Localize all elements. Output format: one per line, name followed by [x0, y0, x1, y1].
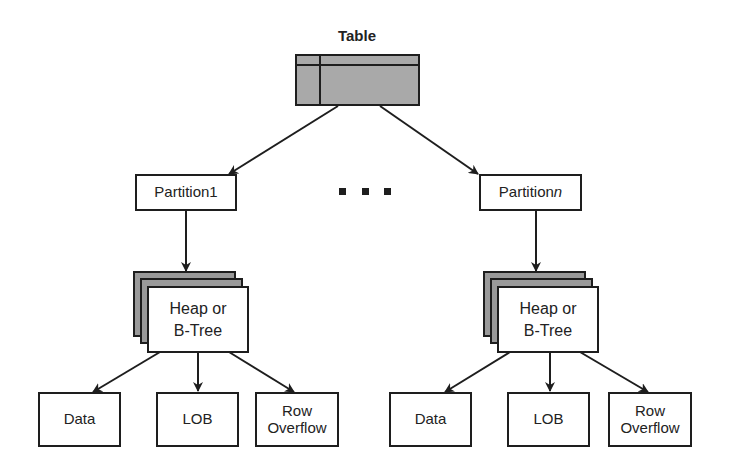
partitionn-label: Partitionn	[480, 175, 581, 210]
arrow-table-to-partitionn	[380, 106, 478, 174]
rowoverflow-1-line2: Overflow	[267, 420, 326, 437]
lob-label-n: LOB	[508, 393, 589, 446]
arrow-storagen-to-rowoverflow	[580, 352, 648, 392]
arrow-table-to-partition1	[229, 106, 338, 174]
arrow-storage1-to-rowoverflow	[229, 352, 294, 392]
table-icon	[296, 55, 419, 105]
diagram-canvas: Table Partition1 Partitionn Heap or B-Tr…	[0, 0, 746, 470]
rowoverflow-n-line1: Row	[635, 403, 665, 420]
storage1-label: Heap or B-Tree	[148, 287, 248, 352]
storagen-line1: Heap or	[520, 300, 577, 318]
arrow-storage1-to-data	[93, 352, 160, 392]
arrow-storagen-to-data	[445, 352, 510, 392]
storage1-line1: Heap or	[170, 300, 227, 318]
table-title: Table	[307, 24, 407, 48]
storage1-line2: B-Tree	[174, 322, 222, 340]
storagen-label: Heap or B-Tree	[498, 287, 598, 352]
rowoverflow-label-1: Row Overflow	[256, 393, 338, 446]
partitionn-label-main: Partition	[499, 184, 554, 201]
lob-label-1: LOB	[157, 393, 238, 446]
rowoverflow-n-line2: Overflow	[620, 420, 679, 437]
rowoverflow-1-line1: Row	[282, 403, 312, 420]
data-label-1: Data	[39, 393, 120, 446]
storagen-line2: B-Tree	[524, 322, 572, 340]
partitionn-label-suffix: n	[554, 184, 562, 201]
partition1-label: Partition1	[136, 175, 236, 210]
ellipsis-icon	[339, 188, 391, 195]
data-label-n: Data	[390, 393, 471, 446]
rowoverflow-label-n: Row Overflow	[609, 393, 691, 446]
